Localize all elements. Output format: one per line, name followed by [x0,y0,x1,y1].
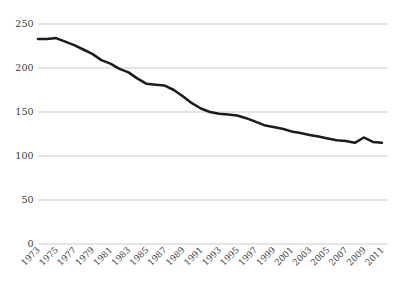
y-axis-tick-label: 150 [15,106,33,117]
y-axis-tick-label: 250 [15,18,33,29]
line-chart-canvas: 0501001502002501973197519771979198119831… [0,0,403,283]
y-axis-tick-label: 100 [15,150,33,161]
y-axis-tick-label: 200 [15,62,33,73]
line-chart-figure: 0501001502002501973197519771979198119831… [0,0,403,283]
y-axis-tick-label: 50 [21,194,33,205]
